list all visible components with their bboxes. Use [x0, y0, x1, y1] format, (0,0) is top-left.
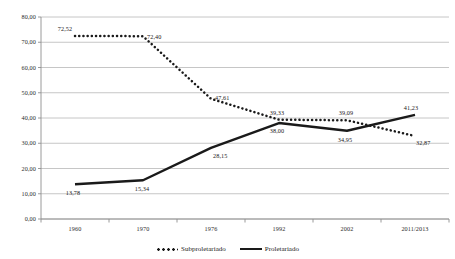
legend-label-proletariado: Proletariado — [265, 245, 299, 253]
gridlines — [41, 17, 449, 219]
x-tick-label: 1970 — [113, 225, 173, 232]
y-tick-label: 40,00 — [22, 114, 36, 121]
series-lines — [75, 36, 415, 184]
x-tickmarks — [41, 219, 449, 223]
x-tick-label: 1976 — [181, 225, 241, 232]
x-tick-label: 2002 — [317, 225, 377, 232]
data-point-label: 47,61 — [215, 94, 229, 101]
data-point-label: 38,00 — [264, 127, 290, 134]
data-point-label: 39,09 — [333, 109, 359, 116]
data-point-label: 13,78 — [60, 189, 86, 196]
y-tick-label: 20,00 — [22, 165, 36, 172]
series-line-subproletariado — [75, 36, 415, 136]
y-tick-label: 0,00 — [25, 215, 36, 222]
legend-item-proletariado[interactable]: Proletariado — [240, 245, 299, 253]
solid-line-swatch-icon — [240, 248, 262, 251]
data-point-label: 41,23 — [398, 104, 424, 111]
chart-legend: Subproletariado Proletariado — [0, 245, 455, 253]
y-tick-label: 80,00 — [22, 13, 36, 20]
x-tick-label: 1992 — [249, 225, 309, 232]
data-point-label: 28,15 — [213, 152, 227, 159]
data-point-label: 34,95 — [332, 136, 358, 143]
data-point-label: 72,52 — [52, 25, 78, 32]
legend-item-subproletariado[interactable]: Subproletariado — [156, 245, 226, 253]
series-line-proletariado — [75, 115, 415, 184]
legend-label-subproletariado: Subproletariado — [181, 245, 226, 253]
y-tick-label: 70,00 — [22, 38, 36, 45]
data-point-label: 72,40 — [147, 33, 161, 40]
y-tick-label: 50,00 — [22, 89, 36, 96]
data-point-label: 39,33 — [264, 109, 290, 116]
y-tick-label: 10,00 — [22, 190, 36, 197]
x-tick-label: 1960 — [45, 225, 105, 232]
data-point-label: 15,34 — [129, 185, 155, 192]
x-tick-label: 2011/2013 — [385, 225, 445, 232]
y-tick-label: 60,00 — [22, 64, 36, 71]
chart-plot — [0, 0, 455, 259]
dotted-line-swatch-icon — [156, 248, 178, 251]
y-tick-label: 30,00 — [22, 139, 36, 146]
data-point-label: 32,87 — [416, 139, 430, 146]
chart-container: 0,0010,0020,0030,0040,0050,0060,0070,008… — [0, 0, 455, 259]
